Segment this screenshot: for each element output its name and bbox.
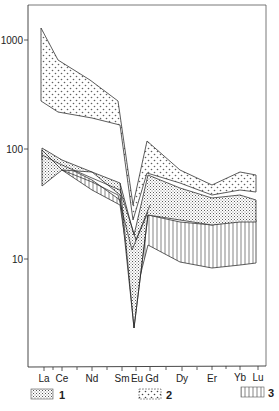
x-label-dy: Dy [176,373,188,384]
legend-swatch-vertical-lines [241,387,264,397]
legend-label-3: 3 [268,387,274,399]
x-label-yb: Yb [234,372,247,383]
legend-item-2: 2 [139,389,172,401]
y-axis-ticks: 1000 100 10 [1,35,28,265]
x-label-ce: Ce [56,373,69,384]
legend-item-1: 1 [31,389,65,401]
y-tick-10: 10 [12,254,24,265]
legend: 1 2 3 [31,387,274,401]
x-label-er: Er [207,373,218,384]
x-label-eu: Eu [131,373,143,384]
y-tick-100: 100 [6,144,23,155]
x-axis [28,366,266,367]
x-label-la: La [38,373,50,384]
y-tick-1000: 1000 [1,35,24,46]
legend-swatch-fine-stipple [31,389,53,399]
x-label-nd: Nd [86,373,99,384]
legend-swatch-coarse-dots [139,389,161,399]
legend-label-2: 2 [166,389,172,401]
x-label-sm: Sm [115,373,130,384]
ree-spider-diagram: 1000 100 10 La Ce Nd Sm Eu Gd Dy Er Yb L… [0,0,279,411]
legend-label-1: 1 [59,389,65,401]
x-label-lu: Lu [252,372,263,383]
legend-item-3: 3 [241,387,274,399]
x-axis-labels: La Ce Nd Sm Eu Gd Dy Er Yb Lu [38,372,263,384]
x-label-gd: Gd [145,373,158,384]
